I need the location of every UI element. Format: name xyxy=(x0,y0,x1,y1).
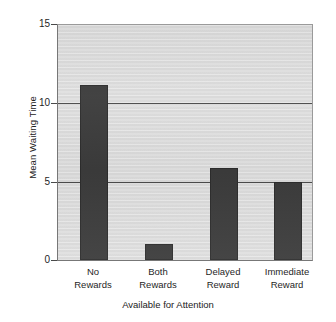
y-tick-label-5: 5 xyxy=(20,176,50,187)
x-category-line-1: No xyxy=(87,266,99,277)
y-tick-label-10: 10 xyxy=(20,97,50,108)
x-axis-title: Available for Attention xyxy=(0,299,336,310)
plot-area xyxy=(57,24,313,261)
bar-no-rewards xyxy=(80,85,108,260)
bar-delayed-reward xyxy=(210,168,238,260)
x-category-line-2: Reward xyxy=(241,279,333,292)
y-axis-title: Mean Waiting Time xyxy=(27,58,38,218)
bar-both-rewards xyxy=(145,244,173,260)
x-category-line-1: Both xyxy=(148,266,168,277)
y-tick-label-0: 0 xyxy=(20,254,50,265)
bar-chart-figure: Mean Waiting Time 0 5 10 15 No Rewards B… xyxy=(0,0,336,322)
x-category-immediate-reward: Immediate Reward xyxy=(241,266,333,291)
x-category-line-1: Immediate xyxy=(265,266,309,277)
bar-immediate-reward xyxy=(274,182,302,260)
y-tick-label-15: 15 xyxy=(20,18,50,29)
x-category-line-1: Delayed xyxy=(206,266,241,277)
